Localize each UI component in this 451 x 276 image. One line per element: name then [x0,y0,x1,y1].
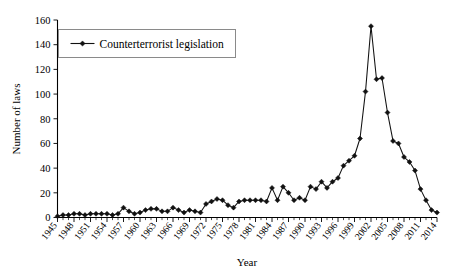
x-tick-label: 1993 [303,220,324,242]
data-point-marker [66,213,71,218]
data-point-marker [77,211,82,216]
data-point-marker [138,210,143,215]
legend-entry-label: Counterterrorist legislation [100,38,224,51]
x-tick-label: 1978 [220,220,241,242]
data-point-marker [413,168,418,173]
data-point-marker [187,208,192,213]
data-point-marker [264,199,269,204]
y-axis-ticks: 020406080100120140160 [35,15,58,224]
x-tick-label: 2011 [402,220,422,242]
data-point-marker [61,213,66,218]
data-point-marker [83,213,88,218]
data-point-marker [248,198,253,203]
data-point-marker [308,184,313,189]
y-axis-title: Number of laws [10,84,22,155]
data-point-marker [154,206,159,211]
x-tick-label: 1990 [286,220,307,242]
x-tick-label: 1987 [270,220,291,242]
y-tick-label: 140 [35,39,51,50]
data-point-marker [358,136,363,141]
x-tick-label: 1960 [121,220,142,242]
data-point-marker [303,198,308,203]
data-point-marker [110,213,115,218]
data-point-marker [182,210,187,215]
data-point-marker [198,210,203,215]
data-point-marker [418,187,423,192]
x-tick-label: 1972 [187,220,208,242]
data-point-marker [363,89,368,94]
data-point-marker [380,76,385,81]
data-point-marker [204,201,209,206]
data-point-marker [424,198,429,203]
data-point-marker [193,209,198,214]
data-point-marker [209,199,214,204]
x-axis-title: Year [237,256,258,268]
data-point-marker [105,211,110,216]
data-point-marker [176,208,181,213]
x-tick-label: 1981 [237,220,258,242]
x-tick-label: 1999 [336,220,357,242]
x-tick-label: 2014 [418,220,439,242]
y-tick-label: 80 [40,114,51,125]
data-point-marker [160,209,165,214]
data-point-marker [270,185,275,190]
data-point-marker [72,211,77,216]
x-tick-label: 2005 [369,220,390,242]
data-point-marker [253,198,258,203]
x-tick-label: 1996 [319,220,340,242]
y-tick-label: 100 [35,89,51,100]
x-tick-label: 1969 [171,220,192,242]
chart-legend: Counterterrorist legislation [59,30,236,58]
data-point-marker [429,208,434,213]
x-tick-label: 1957 [105,220,126,242]
data-point-marker [396,141,401,146]
x-tick-label: 2002 [352,220,373,242]
y-tick-label: 160 [35,15,51,26]
data-point-marker [275,198,280,203]
x-tick-label: 1963 [138,220,159,242]
data-point-marker [369,24,374,29]
y-tick-label: 120 [35,64,51,75]
data-point-marker [88,211,93,216]
data-point-marker [94,211,99,216]
x-tick-label: 1954 [88,220,109,242]
y-tick-label: 40 [40,163,51,174]
y-tick-label: 60 [40,138,51,149]
line-chart: 020406080100120140160 194519481951195419… [0,0,451,276]
x-tick-label: 1948 [55,220,76,242]
x-tick-label: 1945 [39,220,60,242]
data-point-marker [297,195,302,200]
data-point-marker [259,198,264,203]
data-point-marker [132,211,137,216]
data-point-marker [99,211,104,216]
data-point-marker [391,138,396,143]
x-tick-label: 1984 [253,220,274,242]
data-point-marker [385,110,390,115]
data-point-marker [215,196,220,201]
y-tick-label: 20 [40,188,51,199]
data-point-marker [242,198,247,203]
data-point-marker [143,208,148,213]
chart-figure: 020406080100120140160 194519481951195419… [0,0,451,276]
x-axis-ticks: 1945194819511954195719601963196619691972… [39,218,439,242]
x-tick-label: 1966 [154,220,175,242]
data-point-marker [374,77,379,82]
data-point-marker [149,206,154,211]
x-tick-label: 1975 [204,220,225,242]
data-point-marker [435,210,440,215]
x-tick-label: 1951 [72,220,93,242]
x-tick-label: 2008 [385,220,406,242]
